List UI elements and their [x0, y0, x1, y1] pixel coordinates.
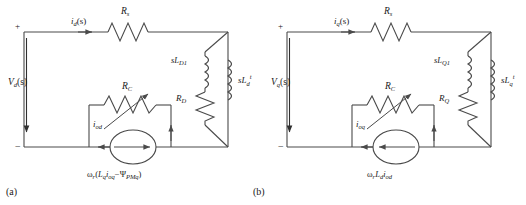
slqt-sub: q: [510, 80, 514, 87]
ioq-sub-b: oq: [359, 123, 366, 130]
svg-text:Vd(s): Vd(s): [8, 77, 27, 88]
psi-sub-a: PMq: [125, 173, 139, 180]
svg-text:Rs: Rs: [120, 6, 130, 17]
sldt-base: sL: [238, 75, 247, 85]
dependent-source-label-a: ωr(Lqioq−ΨPMq): [87, 169, 142, 180]
svg-text:ioq: ioq: [356, 119, 366, 130]
terminal-plus-a: +: [15, 21, 20, 31]
dependent-source-a: [110, 130, 156, 164]
panel-b: + − Vq(s) iq(s) Rs: [253, 6, 515, 198]
svg-text:sLdt: sLdt: [238, 73, 252, 87]
rc-sub: C: [128, 85, 133, 92]
transient-inductor-label-a: sLdt: [238, 73, 252, 87]
svg-text:sLQ1: sLQ1: [434, 55, 450, 66]
damper-resistor-label-b: RQ: [438, 93, 450, 104]
sld1-base: sL: [171, 55, 179, 65]
branch-current-label-a: iod: [93, 119, 103, 130]
input-current-label-b: iq(s): [334, 16, 349, 27]
figure-canvas: + − Vd(s) id(s) Rs: [0, 0, 526, 205]
svg-text:ωr(Lqioq−ΨPMq): ωr(Lqioq−ΨPMq): [87, 169, 142, 180]
damper-inductor-a: [205, 52, 209, 92]
paren-close-a: ): [139, 169, 142, 179]
slqt-base: sL: [501, 75, 510, 85]
rs-sub: s: [127, 10, 130, 17]
rs-sub-b: s: [390, 10, 393, 17]
source-voltage-label-b: Vq(s): [271, 77, 290, 88]
damper-network-b: [468, 32, 491, 147]
svg-text:RC: RC: [121, 81, 133, 92]
transient-inductor-label-b: sLqt: [501, 73, 515, 87]
rc-sub-b: C: [391, 85, 396, 92]
sld1-sub: D1: [178, 59, 187, 66]
damper-network-a: [205, 32, 228, 147]
series-resistor-label-b: Rs: [383, 6, 393, 17]
iq-suffix: (s): [340, 16, 350, 26]
sldt-sup: t: [250, 73, 252, 80]
svg-text:iq(s): iq(s): [334, 16, 349, 27]
rd-sub: D: [181, 97, 187, 104]
iod-sub: od: [96, 123, 103, 130]
svg-text:RC: RC: [384, 81, 396, 92]
slq1-sub: Q1: [442, 59, 450, 66]
dependent-source-b: [373, 130, 419, 164]
variable-resistor-label-b: RC: [384, 81, 396, 92]
iod-sub-b: od: [386, 173, 393, 180]
slqt-sup: t: [513, 73, 515, 80]
series-resistor-a: [108, 23, 148, 41]
sldt-sub: d: [247, 80, 251, 87]
svg-text:id(s): id(s): [71, 16, 86, 27]
rq-sub: Q: [445, 97, 450, 104]
terminal-minus-b: −: [278, 141, 284, 152]
terminal-plus-b: +: [278, 21, 283, 31]
damper-resistor-a: [196, 92, 214, 125]
terminal-minus-a: −: [15, 141, 21, 152]
variable-resistor-label-a: RC: [121, 81, 133, 92]
vq-suffix: (s): [280, 77, 290, 88]
damper-resistor-label-a: RD: [175, 93, 187, 104]
dependent-source-label-b: ωrLdiod: [367, 169, 393, 180]
panel-tag-b: (b): [253, 186, 265, 198]
source-voltage-label-a: Vd(s): [8, 77, 27, 88]
svg-text:ωrLdiod: ωrLdiod: [367, 169, 393, 180]
svg-text:RD: RD: [175, 93, 187, 104]
damper-inductor-b: [468, 52, 472, 92]
panel-tag-a: (a): [6, 186, 17, 198]
series-resistor-label-a: Rs: [120, 6, 130, 17]
damper-inductor-label-a: sLD1: [171, 55, 187, 66]
id-suffix: (s): [77, 16, 87, 26]
svg-text:iod: iod: [93, 119, 103, 130]
panel-a: + − Vd(s) id(s) Rs: [6, 6, 252, 198]
svg-text:Vq(s): Vq(s): [271, 77, 290, 88]
vd-suffix: (s): [17, 77, 27, 88]
damper-inductor-label-b: sLQ1: [434, 55, 450, 66]
branch-current-label-b: ioq: [356, 119, 366, 130]
svg-text:RQ: RQ: [438, 93, 450, 104]
series-resistor-b: [371, 23, 411, 41]
slq1-base: sL: [434, 55, 442, 65]
damper-resistor-b: [459, 92, 477, 125]
svg-text:sLD1: sLD1: [171, 55, 187, 66]
input-current-label-a: id(s): [71, 16, 86, 27]
circuit-diagram-svg: + − Vd(s) id(s) Rs: [0, 0, 526, 205]
svg-text:sLqt: sLqt: [501, 73, 515, 87]
svg-text:Rs: Rs: [383, 6, 393, 17]
